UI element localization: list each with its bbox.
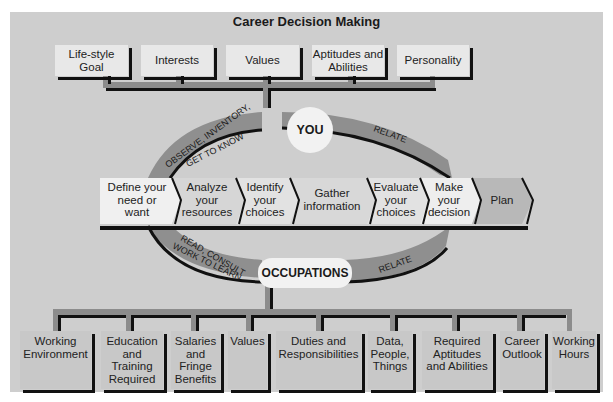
- occupation-values: Values: [228, 331, 267, 389]
- occupations-node: OCCUPATIONS: [258, 258, 352, 288]
- factor-label: Values: [230, 335, 264, 348]
- factor-label: Aptitudes and Abilities: [313, 48, 383, 73]
- occupation-duties-responsibilities: Duties and Responsibilities: [276, 331, 361, 389]
- factor-label: Education and Training Required: [106, 335, 157, 385]
- factor-label: Values: [245, 54, 279, 67]
- step-analyze-resources: Analyze your resources: [178, 181, 236, 219]
- factor-label: Life-style Goal: [68, 48, 114, 73]
- occupation-education-training: Education and Training Required: [101, 331, 163, 389]
- occupation-working-environment: Working Environment: [20, 331, 91, 389]
- factor-label: Working Environment: [23, 335, 88, 360]
- occupation-career-outlook: Career Outlook: [500, 331, 544, 389]
- factor-personality: Personality: [397, 45, 469, 76]
- factor-label: Required Aptitudes and Abilities: [426, 335, 487, 373]
- step-gather-information: Gather information: [298, 187, 366, 212]
- factor-label: Data, People, Things: [370, 335, 409, 373]
- factor-values: Values: [226, 45, 299, 76]
- occupation-working-hours: Working Hours: [552, 331, 596, 389]
- step-evaluate-choices: Evaluate your choices: [370, 181, 422, 219]
- occupation-data-people-things: Data, People, Things: [368, 331, 412, 389]
- factor-interests: Interests: [141, 45, 213, 76]
- bottom-connector-bus: [53, 285, 572, 331]
- step-make-decision: Make your decision: [423, 181, 475, 219]
- factor-label: Interests: [155, 54, 199, 67]
- you-node: YOU: [287, 107, 333, 153]
- factor-label: Duties and Responsibilities: [279, 335, 359, 360]
- factor-label: Salaries and Fringe Benefits: [175, 335, 217, 385]
- factor-label: Working Hours: [553, 335, 595, 360]
- occupation-salaries-benefits: Salaries and Fringe Benefits: [171, 331, 220, 389]
- occupation-required-aptitudes: Required Aptitudes and Abilities: [422, 331, 492, 389]
- factor-lifestyle-goal: Life-style Goal: [55, 45, 128, 76]
- step-identify-choices: Identify your choices: [240, 181, 290, 219]
- factor-aptitudes-abilities: Aptitudes and Abilities: [312, 45, 384, 76]
- factor-label: Career Outlook: [502, 335, 542, 360]
- step-define-need: Define your need or want: [100, 181, 174, 219]
- factor-label: Personality: [405, 54, 462, 67]
- step-plan: Plan: [480, 194, 524, 207]
